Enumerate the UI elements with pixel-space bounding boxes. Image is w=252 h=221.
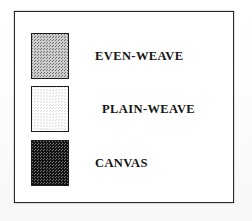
swatch-pattern-fill (32, 34, 68, 78)
legend-frame: EVEN-WEAVE PLAIN-WEAVE CANVAS (14, 11, 234, 203)
legend-entry: PLAIN-WEAVE (15, 86, 233, 132)
legend-label-plain-weave: PLAIN-WEAVE (102, 103, 195, 116)
swatch-even-weave (31, 33, 69, 79)
legend-entry: EVEN-WEAVE (15, 33, 233, 79)
figure-root: EVEN-WEAVE PLAIN-WEAVE CANVAS (0, 0, 252, 221)
legend-label-even-weave: EVEN-WEAVE (95, 50, 184, 63)
legend-label-canvas: CANVAS (95, 157, 148, 170)
swatch-pattern-fill (32, 87, 68, 131)
swatch-plain-weave (31, 86, 69, 132)
legend-entry: CANVAS (15, 140, 233, 186)
swatch-canvas (31, 140, 69, 186)
swatch-pattern-fill (32, 141, 68, 185)
legend-entry-list: EVEN-WEAVE PLAIN-WEAVE CANVAS (15, 12, 233, 202)
